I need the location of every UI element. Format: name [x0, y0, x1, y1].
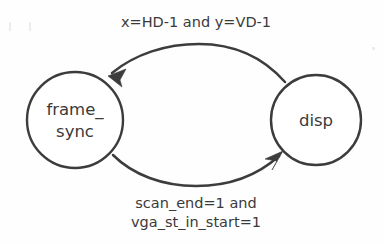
transition-label-top-line1: x=HD-1 and y=VD-1 [121, 14, 271, 30]
state-label-frame-sync-line2: sync [56, 122, 94, 141]
transition-arc-bottom [113, 155, 279, 186]
transition-frame-sync-to-disp[interactable] [113, 151, 283, 186]
arrow-head-into-disp-icon [265, 151, 283, 170]
state-diagram: frame_ sync disp x=HD-1 and y=VD-1 scan_… [0, 0, 384, 244]
state-circle-frame-sync [27, 72, 123, 168]
transition-label-bottom-line2: vga_st_in_start=1 [131, 214, 261, 230]
transition-label-bottom: scan_end=1 and vga_st_in_start=1 [131, 195, 261, 230]
state-label-disp: disp [299, 111, 333, 130]
state-node-frame-sync[interactable]: frame_ sync [27, 72, 123, 168]
transition-arc-top [112, 44, 285, 82]
state-diagram-canvas: frame_ sync disp x=HD-1 and y=VD-1 scan_… [0, 0, 384, 244]
arrow-head-into-frame-sync-icon [108, 69, 126, 87]
state-node-disp[interactable]: disp [271, 75, 361, 165]
transition-disp-to-frame-sync[interactable] [108, 44, 285, 87]
state-label-frame-sync-line1: frame_ [46, 100, 104, 120]
transition-label-bottom-line1: scan_end=1 and [135, 195, 256, 211]
transition-label-top: x=HD-1 and y=VD-1 [121, 14, 271, 30]
